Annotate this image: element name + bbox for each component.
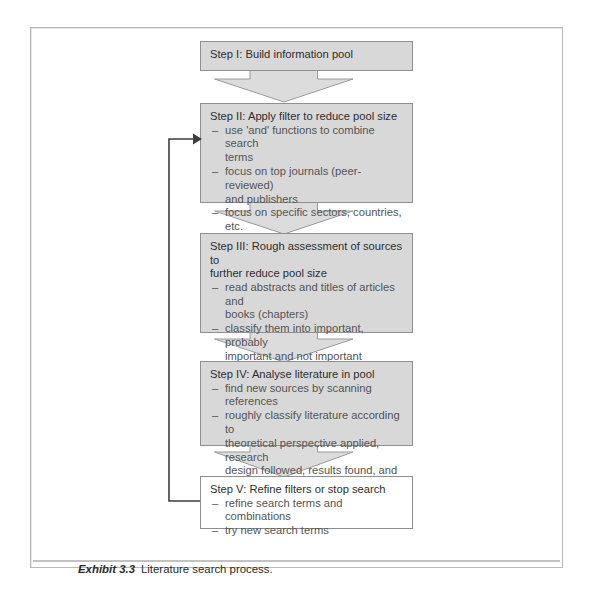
list-item-text: find new sources by scanning references bbox=[225, 382, 372, 408]
list-item: –refine search terms and combinations bbox=[210, 497, 404, 525]
flowchart: Step I: Build information pool Step II: … bbox=[31, 28, 564, 569]
bullet-dash-icon: – bbox=[212, 409, 218, 423]
list-item-text: read abstracts and titles of articles an… bbox=[225, 281, 395, 321]
bullet-dash-icon: – bbox=[212, 281, 218, 295]
step-1-box[interactable]: Step I: Build information pool bbox=[200, 41, 413, 71]
step-2-bullets: –use 'and' functions to combine search t… bbox=[210, 124, 404, 234]
caption-label: Exhibit 3.3 bbox=[78, 563, 135, 575]
list-item: –focus on specific sectors, countries, e… bbox=[210, 206, 404, 234]
step-3-box[interactable]: Step III: Rough assessment of sources to… bbox=[200, 233, 413, 333]
list-item-text: focus on specific sectors, countries, et… bbox=[225, 206, 402, 232]
list-item: –classify them into important, probably … bbox=[210, 322, 404, 363]
list-item: –find new sources by scanning references bbox=[210, 382, 404, 410]
arrow-step1-to-step2 bbox=[214, 68, 354, 103]
bullet-dash-icon: – bbox=[212, 322, 218, 336]
feedback-loop-path bbox=[169, 139, 200, 501]
step-5-title: Step V: Refine filters or stop search bbox=[210, 483, 404, 497]
caption-text: Literature search process. bbox=[141, 563, 273, 575]
list-item: –focus on top journals (peer-reviewed) a… bbox=[210, 165, 404, 206]
step-5-bullets: –refine search terms and combinations –t… bbox=[210, 497, 404, 538]
step-2-box[interactable]: Step II: Apply filter to reduce pool siz… bbox=[200, 103, 413, 203]
bullet-dash-icon: – bbox=[212, 124, 218, 138]
list-item: –read abstracts and titles of articles a… bbox=[210, 281, 404, 322]
figure-frame: Step I: Build information pool Step II: … bbox=[30, 27, 563, 568]
list-item: –try new search terms bbox=[210, 524, 404, 538]
step-1-title: Step I: Build information pool bbox=[210, 48, 404, 62]
step-4-title: Step IV: Analyse literature in pool bbox=[210, 368, 404, 382]
bullet-dash-icon: – bbox=[212, 165, 218, 179]
list-item: –use 'and' functions to combine search t… bbox=[210, 124, 404, 165]
step-2-title: Step II: Apply filter to reduce pool siz… bbox=[210, 110, 404, 124]
list-item-text: try new search terms bbox=[225, 524, 329, 536]
step-5-box[interactable]: Step V: Refine filters or stop search –r… bbox=[200, 476, 413, 529]
list-item-text: focus on top journals (peer-reviewed) an… bbox=[225, 165, 361, 205]
bullet-dash-icon: – bbox=[212, 382, 218, 396]
step-3-title: Step III: Rough assessment of sources to… bbox=[210, 240, 404, 281]
list-item-text: classify them into important, probably i… bbox=[225, 322, 364, 362]
figure-caption: Exhibit 3.3Literature search process. bbox=[78, 563, 273, 575]
list-item-text: use 'and' functions to combine search te… bbox=[225, 124, 375, 164]
step-3-bullets: –read abstracts and titles of articles a… bbox=[210, 281, 404, 364]
bullet-dash-icon: – bbox=[212, 206, 218, 220]
step-4-box[interactable]: Step IV: Analyse literature in pool –fin… bbox=[200, 361, 413, 446]
bullet-dash-icon: – bbox=[212, 497, 218, 511]
list-item-text: refine search terms and combinations bbox=[225, 497, 343, 523]
caption-rule-divider bbox=[33, 560, 560, 562]
bullet-dash-icon: – bbox=[212, 524, 218, 538]
